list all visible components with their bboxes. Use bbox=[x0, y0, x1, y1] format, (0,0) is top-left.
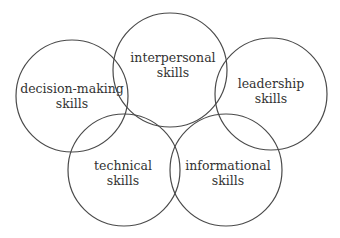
circle-label-line2: skills bbox=[56, 96, 88, 111]
circle-label-line2: skills bbox=[107, 173, 139, 188]
circle-label-line2: skills bbox=[255, 91, 287, 106]
circle-label-line2: skills bbox=[212, 173, 244, 188]
circle-label-line1: decision-making bbox=[20, 81, 124, 96]
circle-label-line1: technical bbox=[94, 158, 152, 173]
circle-leadership: leadership skills bbox=[215, 38, 327, 150]
skills-diagram: decision-making skills interpersonal ski… bbox=[0, 0, 340, 238]
circle-interpersonal: interpersonal skills bbox=[113, 13, 227, 127]
circle-label-line2: skills bbox=[157, 65, 189, 80]
circle-informational: informational skills bbox=[170, 114, 282, 226]
circle-label-line1: interpersonal bbox=[130, 50, 215, 65]
circle-label-line1: informational bbox=[185, 158, 271, 173]
circle-technical: technical skills bbox=[68, 114, 180, 226]
circle-decision-making: decision-making skills bbox=[16, 40, 128, 152]
circle-label-line1: leadership bbox=[238, 76, 305, 91]
